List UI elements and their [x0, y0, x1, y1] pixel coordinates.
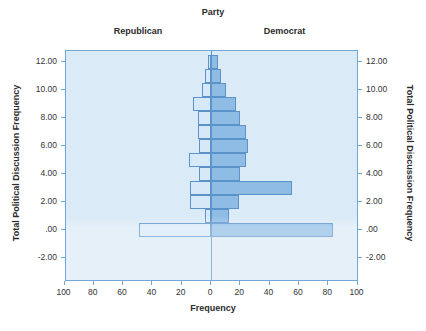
x-tick-10 [357, 281, 358, 285]
bar-republican-5 [189, 153, 211, 167]
plot-area [65, 50, 358, 281]
x-tick-3 [151, 281, 152, 285]
bar-democrat-4 [211, 167, 240, 181]
x-tick-label-1: 80 [78, 287, 108, 297]
y-tick-label-left-1: 10.00 [21, 84, 57, 94]
x-axis-title: Frequency [0, 303, 426, 313]
bar-republican-9 [193, 97, 211, 111]
zero-reference-line [211, 51, 212, 280]
bar-democrat-8 [211, 111, 240, 125]
bar-democrat-7 [211, 125, 246, 139]
bar-democrat-5 [211, 153, 246, 167]
bar-republican-8 [198, 111, 211, 125]
x-tick-1 [93, 281, 94, 285]
y-tick-left-1 [61, 89, 65, 90]
bar-republican-6 [199, 139, 211, 153]
x-tick-8 [298, 281, 299, 285]
bar-democrat-1 [211, 209, 229, 223]
y-tick-label-left-4: 4.00 [21, 168, 57, 178]
bar-republican-0 [139, 223, 211, 237]
y-axis-title-right: Total Political Discussion Frequency [405, 53, 415, 273]
bar-democrat-11 [211, 69, 221, 83]
y-tick-label-right-1: 10.00 [366, 84, 402, 94]
x-tick-7 [269, 281, 270, 285]
bar-republican-3 [190, 181, 211, 195]
x-tick-label-3: 40 [136, 287, 166, 297]
y-tick-label-right-3: 6.00 [366, 140, 402, 150]
bar-democrat-3 [211, 181, 292, 195]
y-tick-label-left-0: 12.00 [21, 56, 57, 66]
bar-democrat-10 [211, 83, 226, 97]
bar-republican-10 [202, 83, 211, 97]
bar-republican-4 [199, 167, 211, 181]
y-tick-label-left-6: .00 [21, 224, 57, 234]
y-tick-left-6 [61, 229, 65, 230]
y-tick-label-left-5: 2.00 [21, 196, 57, 206]
y-tick-right-7 [358, 257, 362, 258]
bar-republican-7 [198, 125, 211, 139]
y-axis-title-left: Total Political Discussion Frequency [11, 53, 21, 273]
y-tick-label-right-5: 2.00 [366, 196, 402, 206]
x-tick-0 [64, 281, 65, 285]
y-tick-left-4 [61, 173, 65, 174]
x-tick-2 [122, 281, 123, 285]
bar-democrat-2 [211, 195, 239, 209]
y-tick-label-right-0: 12.00 [366, 56, 402, 66]
x-tick-label-8: 60 [283, 287, 313, 297]
y-tick-label-right-2: 8.00 [366, 112, 402, 122]
x-tick-label-5: 0 [195, 287, 225, 297]
x-tick-label-10: 100 [342, 287, 372, 297]
x-tick-label-6: 20 [224, 287, 254, 297]
x-tick-label-4: 20 [166, 287, 196, 297]
y-tick-left-3 [61, 145, 65, 146]
bar-republican-2 [190, 195, 211, 209]
x-tick-label-0: 100 [49, 287, 79, 297]
x-tick-label-9: 80 [312, 287, 342, 297]
y-tick-left-0 [61, 61, 65, 62]
x-tick-label-2: 60 [107, 287, 137, 297]
bar-democrat-0 [211, 223, 333, 237]
y-tick-label-left-3: 6.00 [21, 140, 57, 150]
y-tick-right-1 [358, 89, 362, 90]
y-tick-right-2 [358, 117, 362, 118]
y-tick-right-5 [358, 201, 362, 202]
y-tick-right-6 [358, 229, 362, 230]
x-tick-9 [327, 281, 328, 285]
y-tick-left-5 [61, 201, 65, 202]
y-tick-right-0 [358, 61, 362, 62]
y-tick-label-right-6: .00 [366, 224, 402, 234]
panel-label-democrat: Democrat [211, 26, 358, 36]
x-tick-4 [181, 281, 182, 285]
y-tick-left-2 [61, 117, 65, 118]
bar-democrat-9 [211, 97, 236, 111]
x-tick-6 [239, 281, 240, 285]
y-tick-right-3 [358, 145, 362, 146]
y-tick-label-right-4: 4.00 [366, 168, 402, 178]
y-tick-label-right-7: -2.00 [366, 252, 402, 262]
population-pyramid-chart: Party Republican Democrat 12.0012.0010.0… [0, 0, 426, 331]
bar-democrat-6 [211, 139, 248, 153]
y-tick-left-7 [61, 257, 65, 258]
x-tick-label-7: 40 [254, 287, 284, 297]
y-tick-label-left-7: -2.00 [21, 252, 57, 262]
chart-title: Party [0, 7, 426, 17]
y-tick-label-left-2: 8.00 [21, 112, 57, 122]
y-tick-right-4 [358, 173, 362, 174]
panel-label-republican: Republican [65, 26, 211, 36]
x-tick-5 [210, 281, 211, 285]
bar-democrat-12 [211, 55, 218, 69]
